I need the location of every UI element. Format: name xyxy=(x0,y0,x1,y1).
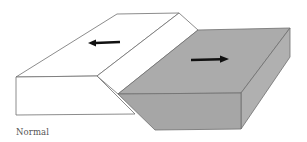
hanging-wall-front xyxy=(118,93,241,130)
figure-caption: Normal xyxy=(16,127,49,137)
normal-fault-diagram xyxy=(0,0,307,142)
